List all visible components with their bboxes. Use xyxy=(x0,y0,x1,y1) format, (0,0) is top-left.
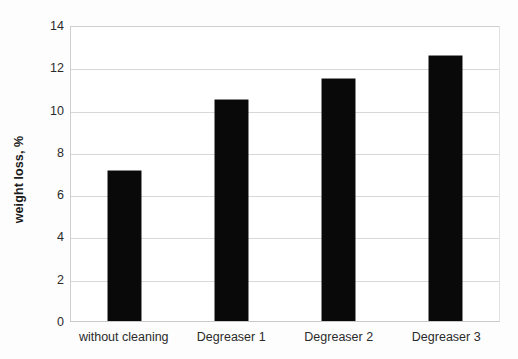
bar-slot xyxy=(392,27,499,321)
x-tick-label: Degreaser 3 xyxy=(393,326,501,352)
bar-slot xyxy=(178,27,285,321)
bar-slot xyxy=(285,27,392,321)
bar xyxy=(108,171,141,321)
plot-area xyxy=(70,26,500,322)
y-tick-label: 14 xyxy=(30,19,64,33)
bar-chart-figure: weight loss, % 02468101214 without clean… xyxy=(0,0,518,359)
y-tick-label: 8 xyxy=(30,146,64,160)
bars-container xyxy=(71,27,499,321)
x-tick-label: Degreaser 2 xyxy=(285,326,393,352)
y-tick-label: 2 xyxy=(30,273,64,287)
bar xyxy=(215,100,248,321)
y-tick-label: 12 xyxy=(30,61,64,75)
x-tick-label: without cleaning xyxy=(70,326,178,352)
bar xyxy=(322,79,355,321)
y-tick-label: 10 xyxy=(30,104,64,118)
bar xyxy=(429,56,462,321)
x-tick-label: Degreaser 1 xyxy=(178,326,286,352)
x-axis-tick-labels: without cleaningDegreaser 1Degreaser 2De… xyxy=(70,326,500,352)
bar-slot xyxy=(71,27,178,321)
y-axis-tick-labels: 02468101214 xyxy=(30,26,64,322)
y-tick-label: 4 xyxy=(30,230,64,244)
y-tick-label: 0 xyxy=(30,315,64,329)
y-tick-label: 6 xyxy=(30,188,64,202)
